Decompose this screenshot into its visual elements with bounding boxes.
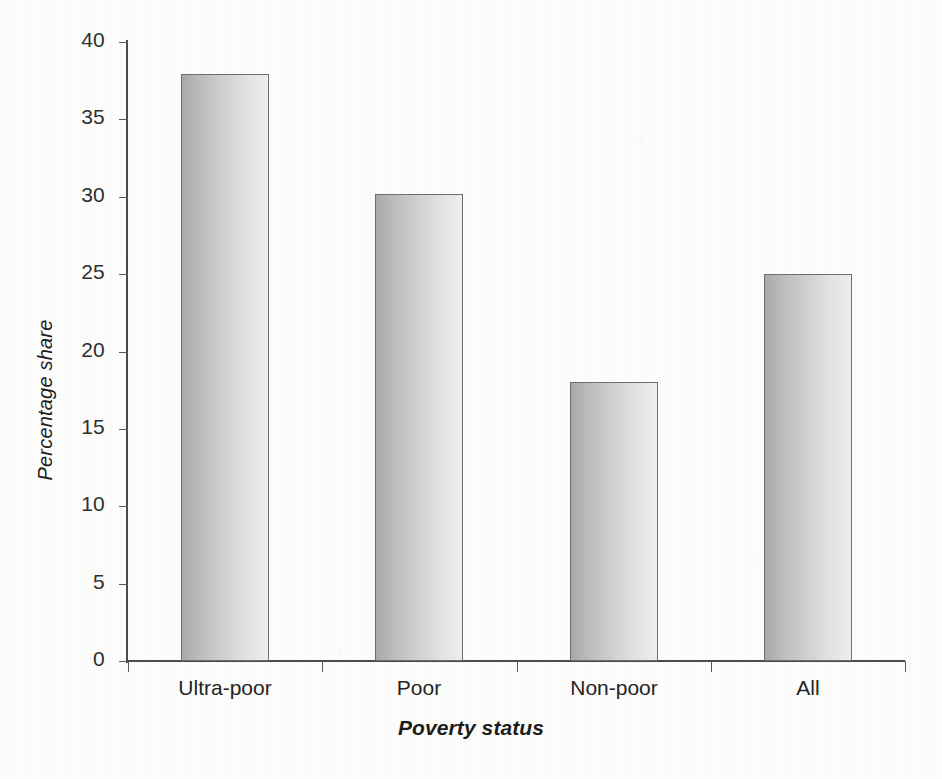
bar-all (764, 274, 852, 661)
y-tick-mark (119, 584, 128, 585)
y-tick-mark (119, 42, 128, 43)
bar-non-poor (570, 382, 658, 661)
y-tick-mark (119, 506, 128, 507)
y-axis-title: Percentage share (34, 250, 57, 550)
y-tick-label: 5 (45, 570, 105, 594)
y-tick-label: 0 (45, 647, 105, 671)
y-tick-label: 30 (45, 183, 105, 207)
x-tick-mark (517, 661, 518, 672)
bar-chart-figure: 0510152025303540 Ultra-poorPoorNon-poorA… (0, 0, 942, 779)
x-category-label: Non-poor (570, 676, 658, 700)
x-category-label: Ultra-poor (178, 676, 271, 700)
y-tick-mark (119, 352, 128, 353)
x-category-label: All (796, 676, 819, 700)
y-tick-mark (119, 274, 128, 275)
bar-ultra-poor (181, 74, 269, 661)
x-tick-mark (322, 661, 323, 672)
x-tick-mark (905, 661, 906, 672)
x-axis-title: Poverty status (0, 716, 942, 740)
y-tick-mark (119, 661, 128, 662)
y-tick-label: 40 (45, 28, 105, 52)
x-tick-mark (711, 661, 712, 672)
x-tick-mark (128, 661, 129, 672)
bar-poor (375, 194, 463, 661)
y-tick-mark (119, 197, 128, 198)
x-category-label: Poor (397, 676, 441, 700)
y-tick-label: 35 (45, 105, 105, 129)
y-tick-mark (119, 429, 128, 430)
y-tick-mark (119, 119, 128, 120)
